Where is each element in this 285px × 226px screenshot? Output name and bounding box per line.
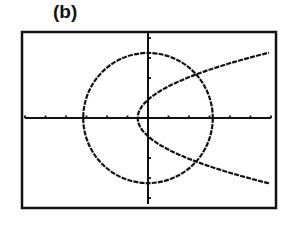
calculator-graph bbox=[0, 0, 285, 226]
